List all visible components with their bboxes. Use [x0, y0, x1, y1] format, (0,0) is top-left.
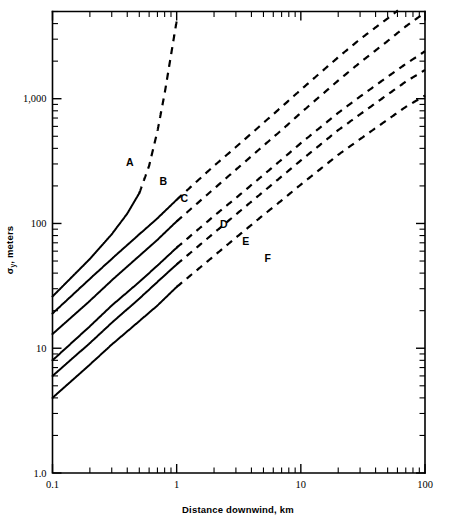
ticks-group	[53, 12, 426, 474]
curve-label-d: D	[220, 218, 228, 230]
y-axis-title-text: σy, meters	[4, 226, 17, 275]
x-tick-label: 100	[417, 479, 433, 490]
chart-figure: 0.11101001.0101001,000 ABCDEF Distance d…	[0, 0, 450, 526]
y-tick-label: 1.0	[33, 468, 46, 479]
curve-label-b: B	[159, 175, 167, 187]
axes-group	[53, 12, 426, 474]
curve-label-a: A	[126, 156, 134, 168]
y-axis-title: σy, meters	[4, 226, 17, 275]
y-tick-label: 10	[36, 343, 47, 354]
curve-f-dashed	[177, 96, 425, 287]
curve-d-dashed	[177, 51, 425, 247]
x-axis-title-text: Distance downwind, km	[182, 504, 294, 515]
curves-group	[53, 10, 426, 397]
curve-c-dashed	[177, 13, 425, 222]
x-tick-label: 0.1	[46, 479, 59, 490]
curve-label-c: C	[180, 192, 188, 204]
x-tick-label: 10	[296, 479, 307, 490]
sigma-y-plot: 0.11101001.0101001,000 ABCDEF Distance d…	[0, 0, 450, 526]
curve-e-dashed	[177, 70, 425, 264]
x-tick-label: 1	[174, 479, 179, 490]
y-tick-label: 1,000	[23, 93, 47, 104]
y-tick-label: 100	[31, 218, 47, 229]
curve-label-e: E	[242, 235, 249, 247]
curve-b-solid	[53, 200, 177, 314]
curve-label-f: F	[264, 252, 271, 264]
curve-e-solid	[53, 264, 177, 376]
y-axis-units: , meters	[4, 226, 15, 264]
x-axis-title: Distance downwind, km	[182, 504, 294, 515]
curve-a-dashed	[139, 21, 176, 193]
axis-spine-left-bottom	[53, 12, 426, 474]
